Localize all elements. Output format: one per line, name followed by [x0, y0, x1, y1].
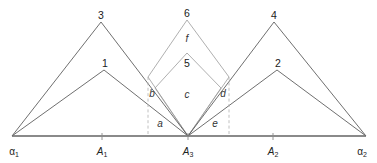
region-d-label: d [220, 88, 226, 99]
apex-1-label: 1 [102, 57, 108, 69]
region-b-label: b [149, 88, 155, 99]
geometry-diagram: 316542 fbcdae α1A1A3A2α2 [0, 0, 377, 163]
apex-6-label: 6 [184, 7, 190, 19]
apex-4-label: 4 [271, 9, 277, 21]
apex-3-label: 3 [98, 9, 104, 21]
axis-alpha1-label: α1 [9, 146, 19, 158]
figure-container: 316542 fbcdae α1A1A3A2α2 [0, 0, 377, 163]
apex-2-label: 2 [275, 57, 281, 69]
apex-5-label: 5 [184, 57, 190, 69]
axis-A2-label: A2 [267, 146, 279, 158]
region-e-label: e [212, 118, 218, 129]
apex-label-group: 316542 [98, 7, 281, 69]
axis-label-group: α1A1A3A2α2 [9, 146, 367, 158]
region-f-label: f [186, 33, 190, 44]
region-a-label: a [157, 118, 163, 129]
axis-alpha2-label: α2 [357, 146, 367, 158]
region-c-label: c [185, 89, 190, 100]
axis-A3-label: A3 [182, 146, 194, 158]
axis-A1-label: A1 [96, 146, 108, 158]
